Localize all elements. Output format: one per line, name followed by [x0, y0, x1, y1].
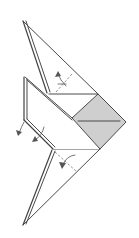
left-fold-arrow-1: [16, 122, 24, 136]
upper-triangular-flap: [23, 21, 98, 94]
origami-diagram: [0, 0, 139, 238]
lower-triangular-flap: [23, 149, 100, 225]
